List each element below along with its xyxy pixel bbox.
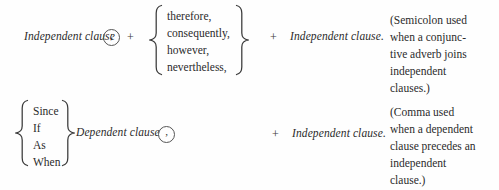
row1-note-line-1: when a conjunc- xyxy=(390,29,498,46)
row2-punctuation-glyph: , xyxy=(165,125,168,136)
row2-note-line-2: clause precedes an xyxy=(390,138,498,155)
row2-subordinator-0: Since xyxy=(33,103,60,120)
row2-note-line-4: clause.) xyxy=(390,172,498,189)
row2-subject-clause: Dependent clause xyxy=(76,126,160,138)
row1-punctuation-glyph: ; xyxy=(110,29,113,40)
row1-connector-3: nevertheless, xyxy=(167,59,230,76)
row1-semicolon-circle: ; xyxy=(103,27,120,46)
punctuation-pattern-diagram: Independent clause ; + therefore, conseq… xyxy=(0,0,499,190)
row2-explanatory-note: (Comma used when a dependent clause prec… xyxy=(390,104,498,189)
row1-connector-2: however, xyxy=(167,42,230,59)
row1-right-brace-icon xyxy=(235,4,251,76)
row1-plus-sign-2: + xyxy=(270,30,277,45)
row1-connector-list: therefore, consequently, however, nevert… xyxy=(167,8,230,76)
row2-subordinator-1: If xyxy=(33,120,60,137)
row2-note-line-3: independent xyxy=(390,155,498,172)
row1-left-brace-icon xyxy=(147,4,163,76)
semicolon-icon: ; xyxy=(103,29,120,46)
row1-note-line-3: independent xyxy=(390,63,498,80)
row2-subordinator-3: When xyxy=(33,154,60,171)
row2-comma-circle: , xyxy=(158,124,175,143)
row2-right-brace-icon xyxy=(61,99,77,167)
row1-subject-label: Independent clause xyxy=(24,30,115,42)
row1-note-line-4: clauses.) xyxy=(390,80,498,97)
row2-plus-sign-1: + xyxy=(272,127,279,142)
row1-plus-sign-1: + xyxy=(127,30,134,45)
row2-subordinator-2: As xyxy=(33,137,60,154)
row2-left-brace-icon xyxy=(13,99,29,167)
row1-explanatory-note: (Semicolon used when a conjunc- tive adv… xyxy=(390,12,498,97)
row2-subordinator-list: Since If As When xyxy=(33,103,60,171)
row2-predicate-clause: Independent clause. xyxy=(292,127,386,139)
row1-subject-clause: Independent clause xyxy=(24,30,115,42)
row2-note-line-1: when a dependent xyxy=(390,121,498,138)
row1-predicate-clause: Independent clause. xyxy=(290,30,384,42)
row2-note-line-0: (Comma used xyxy=(390,104,498,121)
row1-connector-1: consequently, xyxy=(167,25,230,42)
row1-note-line-2: tive adverb joins xyxy=(390,46,498,63)
comma-icon: , xyxy=(158,126,175,143)
row1-connector-0: therefore, xyxy=(167,8,230,25)
row1-note-line-0: (Semicolon used xyxy=(390,12,498,29)
